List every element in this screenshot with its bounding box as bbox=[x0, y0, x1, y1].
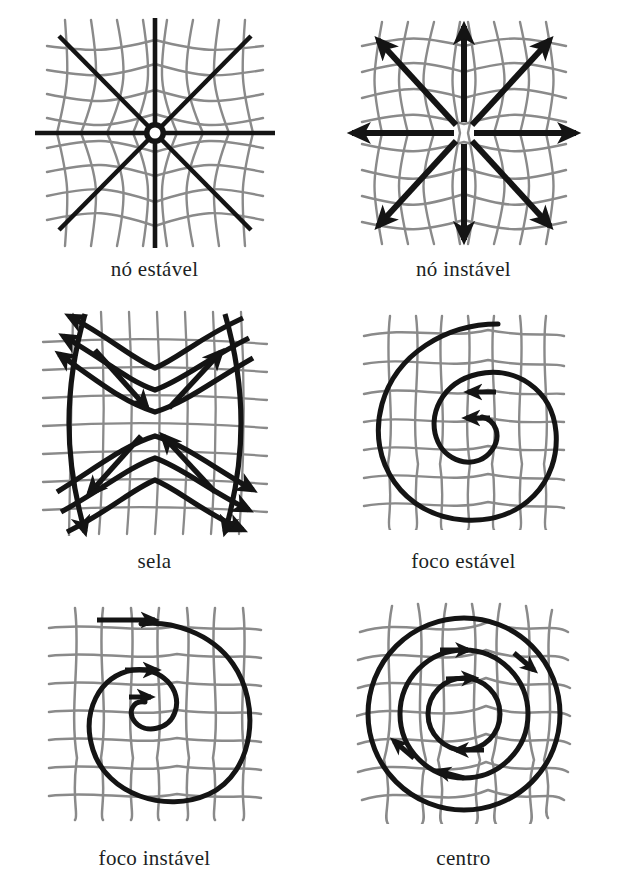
panel-no-estavel: nó estável bbox=[0, 0, 309, 290]
diagram-no-estavel bbox=[29, 14, 281, 252]
caption-centro: centro bbox=[436, 848, 490, 869]
equilibrium-point-no-estavel bbox=[144, 122, 166, 144]
diagram-foco-instavel bbox=[29, 598, 281, 836]
panel-foco-estavel: foco estável bbox=[309, 290, 618, 580]
deformed-grid-centro bbox=[356, 604, 570, 824]
caption-foco-estavel: foco estável bbox=[411, 551, 515, 572]
trajectory-arrows-no-instavel bbox=[352, 26, 576, 240]
panel-centro: centro bbox=[309, 580, 618, 873]
caption-no-estavel: nó estável bbox=[111, 259, 199, 280]
diagram-no-instavel bbox=[338, 14, 590, 252]
caption-sela: sela bbox=[138, 551, 172, 572]
panel-foco-instavel: foco instável bbox=[0, 580, 309, 873]
caption-no-instavel: nó instável bbox=[416, 259, 511, 280]
phase-portrait-figure: nó estável bbox=[0, 0, 618, 873]
panel-no-instavel: nó instável bbox=[309, 0, 618, 290]
diagram-sela bbox=[29, 304, 281, 542]
diagram-centro bbox=[338, 598, 590, 836]
diagram-foco-estavel bbox=[338, 304, 590, 542]
caption-foco-instavel: foco instável bbox=[99, 848, 211, 869]
panel-sela: sela bbox=[0, 290, 309, 580]
deformed-grid-foco-instavel bbox=[49, 608, 261, 820]
closed-orbits-centro bbox=[368, 618, 560, 810]
spiral-arrowheads-foco-estavel bbox=[466, 392, 496, 418]
